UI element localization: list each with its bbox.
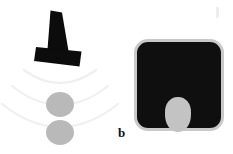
hyperechoic-lesion-oval (165, 97, 191, 132)
scan-artifact (216, 7, 219, 18)
panel-a-transducer-beam (0, 0, 120, 154)
figure-root: b (0, 0, 233, 154)
panel-b-ultrasound-image (134, 39, 224, 131)
panel-b-label: b (118, 126, 125, 140)
ultrasound-transducer-icon (26, 6, 92, 72)
ultrasound-frame (134, 39, 224, 131)
target-upper-circle (46, 92, 74, 117)
target-lower-circle (46, 120, 74, 145)
